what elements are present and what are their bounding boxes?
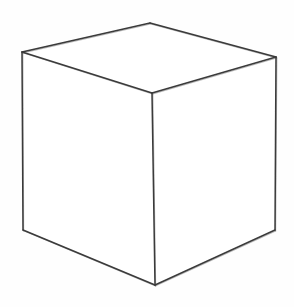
cube-drawing — [0, 0, 294, 307]
cube-right-face — [152, 57, 276, 285]
cube-edge-top-right-to-bottom-right — [275, 57, 276, 230]
cube-edge-top-left-to-bottom-left — [22, 52, 23, 230]
cube-sketch-canvas — [0, 0, 294, 307]
